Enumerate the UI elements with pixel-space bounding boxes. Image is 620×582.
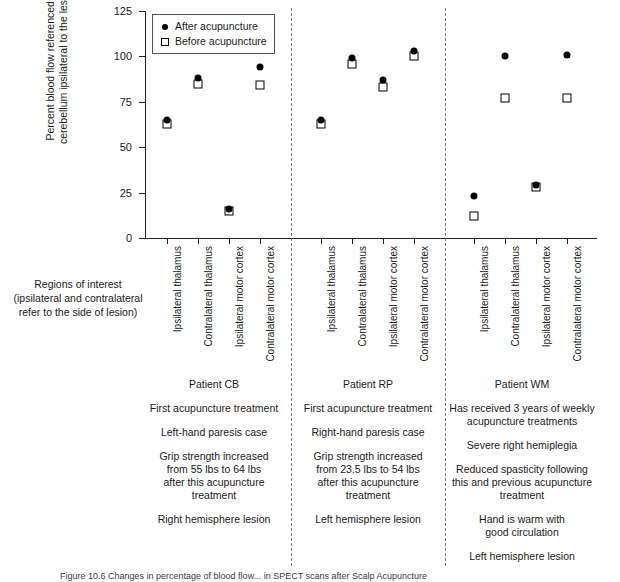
patient-block: Patient WMHas received 3 years of weekly… xyxy=(447,378,597,563)
patient-detail-line: Right hemisphere lesion xyxy=(139,513,289,526)
patient-title: Patient WM xyxy=(447,378,597,391)
y-tick-label-wrap: 100 xyxy=(100,56,132,57)
roi-tick-label: Contralateral motor cortex xyxy=(419,246,430,362)
patient-detail-line: Hand is warm with xyxy=(447,513,597,526)
y-tick-label: 50 xyxy=(100,141,132,153)
y-tick-label: 125 xyxy=(100,5,132,17)
roi-tick-label: Ipsilateral thalamus xyxy=(172,246,183,332)
patient-detail-line: good circulation xyxy=(447,526,597,539)
roi-caption: Regions of interest (ipsilateral and con… xyxy=(8,277,148,319)
x-tick xyxy=(229,239,230,244)
figure-caption: Figure 10.6 Changes in percentage of blo… xyxy=(60,571,600,581)
y-tick-label-wrap: 25 xyxy=(100,193,132,194)
y-axis-title-line2: cerebellum ipsilateral to the lesion xyxy=(57,0,70,180)
patient-detail: Grip strength increasedfrom 55 lbs to 64… xyxy=(139,450,289,502)
x-tick xyxy=(260,239,261,244)
patient-detail-line: acupuncture treatments xyxy=(447,415,597,428)
data-point-before xyxy=(470,212,479,221)
patient-title: Patient RP xyxy=(293,378,443,391)
data-point-before xyxy=(563,94,572,103)
patient-detail-line: from 23.5 lbs to 54 lbs xyxy=(293,463,443,476)
group-separator-2 xyxy=(445,8,446,566)
roi-tick-label: Ipsilateral thalamus xyxy=(326,246,337,332)
patient-detail-line: this and previous acupuncture xyxy=(447,476,597,489)
data-point-after xyxy=(380,77,387,84)
roi-tick-label: Contralateral thalamus xyxy=(203,246,214,347)
data-point-after xyxy=(533,182,540,189)
data-point-after xyxy=(257,64,264,71)
patient-detail-line: after this acupuncture xyxy=(293,476,443,489)
roi-tick-label: Ipsilateral motor cortex xyxy=(541,246,552,347)
patient-detail: Hand is warm withgood circulation xyxy=(447,513,597,539)
patient-title: Patient CB xyxy=(139,378,289,391)
x-axis-line xyxy=(145,238,597,239)
patient-block: Patient CBFirst acupuncture treatmentLef… xyxy=(139,378,289,526)
x-tick xyxy=(414,239,415,244)
patient-detail: Reduced spasticity followingthis and pre… xyxy=(447,463,597,502)
roi-caption-line1: Regions of interest xyxy=(8,277,148,291)
x-tick xyxy=(474,239,475,244)
data-point-after xyxy=(226,205,233,212)
y-tick-label-wrap: 0 xyxy=(100,238,132,239)
y-tick-label-wrap: 50 xyxy=(100,147,132,148)
patient-detail-line: Left hemisphere lesion xyxy=(293,513,443,526)
roi-tick-label: Ipsilateral motor cortex xyxy=(234,246,245,347)
patient-detail: Right-hand paresis case xyxy=(293,426,443,439)
data-point-after xyxy=(411,47,418,54)
data-point-before xyxy=(256,81,265,90)
patient-block: Patient RPFirst acupuncture treatmentRig… xyxy=(293,378,443,526)
roi-tick-label: Ipsilateral motor cortex xyxy=(388,246,399,347)
roi-tick-label: Contralateral motor cortex xyxy=(265,246,276,362)
roi-tick-label: Contralateral thalamus xyxy=(357,246,368,347)
data-point-after xyxy=(195,75,202,82)
x-tick xyxy=(505,239,506,244)
figure-container: Percent blood flow referenced to cerebel… xyxy=(0,0,620,582)
x-tick xyxy=(198,239,199,244)
data-point-after xyxy=(564,51,571,58)
patient-detail: First acupuncture treatment xyxy=(293,402,443,415)
roi-caption-line2: (ipsilateral and contralateral xyxy=(8,291,148,305)
patient-detail: Has received 3 years of weeklyacupunctur… xyxy=(447,402,597,428)
y-tick xyxy=(139,238,145,239)
patient-detail-line: Grip strength increased xyxy=(293,450,443,463)
data-point-after xyxy=(349,55,356,62)
patient-detail-line: treatment xyxy=(447,489,597,502)
x-tick xyxy=(383,239,384,244)
patient-detail-line: Severe right hemiplegia xyxy=(447,439,597,452)
data-point-before xyxy=(501,94,510,103)
patient-detail: Right hemisphere lesion xyxy=(139,513,289,526)
patient-detail-line: Reduced spasticity following xyxy=(447,463,597,476)
roi-caption-line3: refer to the side of lesion) xyxy=(8,305,148,319)
patient-detail-line: Left hemisphere lesion xyxy=(447,550,597,563)
y-axis-title: Percent blood flow referenced to cerebel… xyxy=(44,0,70,180)
patient-detail-line: treatment xyxy=(293,489,443,502)
patient-detail: Left hemisphere lesion xyxy=(447,550,597,563)
patient-detail: Severe right hemiplegia xyxy=(447,439,597,452)
x-tick xyxy=(352,239,353,244)
patient-detail-line: from 55 lbs to 64 lbs xyxy=(139,463,289,476)
patient-detail: Left-hand paresis case xyxy=(139,426,289,439)
x-tick xyxy=(167,239,168,244)
group-separator-1 xyxy=(291,8,292,566)
patient-detail-line: Grip strength increased xyxy=(139,450,289,463)
x-tick xyxy=(321,239,322,244)
data-point-after xyxy=(471,193,478,200)
patient-detail: First acupuncture treatment xyxy=(139,402,289,415)
data-point-after xyxy=(318,116,325,123)
y-tick-label-wrap: 75 xyxy=(100,102,132,103)
patient-detail-line: treatment xyxy=(139,489,289,502)
y-tick-label: 100 xyxy=(100,50,132,62)
y-tick-label: 0 xyxy=(100,232,132,244)
patient-detail: Grip strength increasedfrom 23.5 lbs to … xyxy=(293,450,443,502)
x-tick xyxy=(536,239,537,244)
data-point-after xyxy=(502,53,509,60)
patient-detail: Left hemisphere lesion xyxy=(293,513,443,526)
patient-detail-line: Has received 3 years of weekly xyxy=(447,402,597,415)
data-point-before xyxy=(379,83,388,92)
roi-tick-label: Contralateral thalamus xyxy=(510,246,521,347)
patient-detail-line: First acupuncture treatment xyxy=(293,402,443,415)
patient-detail-line: Left-hand paresis case xyxy=(139,426,289,439)
y-tick-label-wrap: 125 xyxy=(100,11,132,12)
data-point-after xyxy=(164,116,171,123)
patient-detail-line: Right-hand paresis case xyxy=(293,426,443,439)
